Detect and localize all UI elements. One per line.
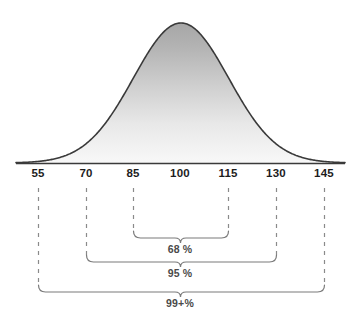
one-sigma-bracket-label: 68 %: [168, 243, 193, 255]
x-axis-tick-label: 70: [79, 167, 92, 179]
x-axis-tick-label: 85: [126, 167, 139, 179]
bell-curve-fill: [16, 23, 345, 163]
one-sigma-bracket: [134, 231, 229, 243]
percent-brackets: [39, 231, 325, 297]
x-axis-tick-label: 145: [314, 167, 334, 179]
three-sigma-bracket: [39, 285, 325, 297]
x-axis-tick-label: 115: [218, 167, 237, 179]
x-axis-tick-label: 100: [170, 167, 190, 179]
two-sigma-bracket-label: 95 %: [168, 267, 193, 279]
x-axis-tick-label: 55: [31, 167, 44, 179]
x-axis-tick-label: 130: [266, 167, 286, 179]
three-sigma-bracket-label: 99+%: [166, 297, 194, 309]
two-sigma-bracket: [87, 255, 277, 267]
normal-distribution-chart: 557085100115130145 68 %95 %99+%: [0, 0, 356, 323]
